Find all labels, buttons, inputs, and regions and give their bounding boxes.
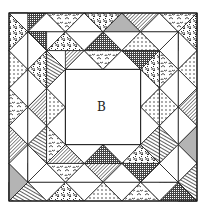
center-label: B xyxy=(97,100,106,114)
